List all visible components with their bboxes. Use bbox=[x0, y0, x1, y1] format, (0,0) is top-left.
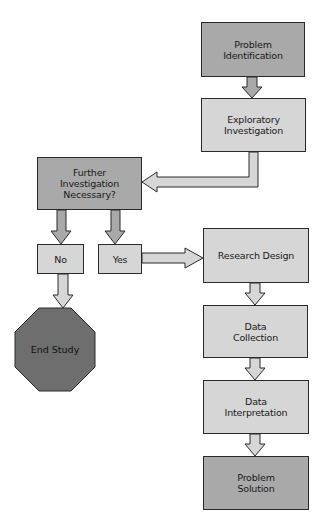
node-label-line: Exploratory bbox=[224, 114, 283, 125]
node-label-line: Solution bbox=[237, 483, 274, 494]
node-label-line: Further bbox=[60, 167, 119, 178]
node-label-line: Data bbox=[225, 396, 288, 407]
node-label-line: Investigation bbox=[224, 125, 283, 136]
arrow-research-to-collection bbox=[245, 283, 265, 305]
node-data-interpretation: Data Interpretation bbox=[203, 380, 309, 434]
node-label-line: End bbox=[31, 344, 49, 355]
node-label: No bbox=[54, 254, 67, 265]
node-label-line: Problem bbox=[237, 472, 274, 483]
arrow-further-to-yes bbox=[105, 210, 125, 244]
node-label-line: Problem bbox=[223, 39, 283, 50]
node-label-line: Data bbox=[233, 321, 278, 332]
node-problem-solution: Problem Solution bbox=[203, 456, 309, 510]
node-label: Research Design bbox=[218, 250, 294, 261]
node-label-line: Identification bbox=[223, 50, 283, 61]
node-data-collection: Data Collection bbox=[203, 305, 308, 358]
node-label: Yes bbox=[113, 254, 128, 265]
node-further-investigation-decision: Further Investigation Necessary? bbox=[37, 157, 142, 210]
arrow-exploratory-to-further bbox=[142, 152, 258, 192]
node-label-line: Investigation bbox=[60, 178, 119, 189]
arrow-collection-to-interpretation bbox=[245, 358, 265, 380]
arrow-further-to-no bbox=[51, 210, 71, 244]
node-label-line: Study bbox=[52, 344, 79, 355]
arrow-interpretation-to-solution bbox=[245, 434, 265, 456]
arrow-yes-to-research bbox=[142, 248, 203, 268]
node-label-line: Interpretation bbox=[225, 407, 288, 418]
node-label-line: Necessary? bbox=[60, 189, 119, 200]
node-no: No bbox=[37, 244, 84, 274]
node-label-line: Collection bbox=[233, 332, 278, 343]
arrow-no-to-end bbox=[53, 274, 73, 308]
node-problem-identification: Problem Identification bbox=[201, 22, 305, 77]
node-exploratory-investigation: Exploratory Investigation bbox=[201, 98, 306, 152]
node-end-study: End Study bbox=[15, 308, 95, 391]
arrow-problem-to-exploratory bbox=[242, 77, 262, 98]
node-research-design: Research Design bbox=[203, 228, 309, 283]
node-yes: Yes bbox=[98, 244, 142, 274]
